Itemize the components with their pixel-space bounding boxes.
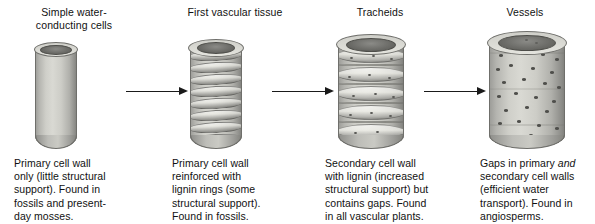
caption-line: only (little structural [14, 170, 159, 183]
stage-title-line-1: Vessels [455, 6, 595, 19]
cell-wall-outline [190, 46, 242, 148]
caption-line: structural support) but [325, 183, 477, 196]
caption-line: in all vascular plants. [325, 210, 477, 223]
caption-tracheids: Secondary cell wall with lignin (increas… [325, 157, 477, 223]
caption-first-vascular-tissue: Primary cell wall reinforced with lignin… [172, 157, 317, 223]
cell-lumen-opening [40, 45, 72, 55]
stage-title-line-1: First vascular tissue [160, 6, 310, 19]
caption-vessels: Gaps in primary and secondary cell walls… [480, 157, 595, 223]
arrow-shaft [424, 91, 477, 92]
caption-line: contains gaps. Found [325, 197, 477, 210]
cell-illustration-tracheids [338, 42, 404, 148]
caption-line: Found in fossils. [172, 210, 317, 223]
stage-title-first-vascular-tissue: First vascular tissue [160, 6, 310, 19]
arrow-shaft [272, 91, 325, 92]
stage-title-line-1: Tracheids [310, 6, 450, 19]
stage-title-simple-water-conducting-cells: Simple water- conducting cells [4, 6, 144, 31]
caption-line: Primary cell wall [14, 157, 159, 170]
cell-wall-outline [35, 48, 77, 148]
arrow-3 [424, 87, 486, 96]
caption-line: with lignin (increased [325, 170, 477, 183]
caption-line: Primary cell wall [172, 157, 317, 170]
arrow-2 [272, 87, 334, 96]
cell-illustration-vessels [489, 40, 565, 148]
caption-line: Secondary cell wall [325, 157, 477, 170]
stage-title-vessels: Vessels [455, 6, 595, 19]
arrow-1 [126, 87, 188, 96]
caption-line: day mosses. [14, 210, 159, 223]
cell-lumen-opening [346, 38, 396, 52]
stage-title-tracheids: Tracheids [310, 6, 450, 19]
cell-lumen-opening [197, 42, 235, 54]
arrow-shaft [126, 91, 179, 92]
caption-line: structural support). [172, 197, 317, 210]
arrow-head-icon [179, 87, 188, 95]
caption-line: secondary cell walls [480, 170, 595, 183]
arrow-head-icon [325, 87, 334, 95]
caption-line: transport). Found in [480, 197, 595, 210]
stage-title-line-1: Simple water- [4, 6, 144, 19]
cell-perforation-opening [498, 35, 556, 51]
caption-line-with-italic: Gaps in primary and [480, 157, 595, 170]
cell-illustration-simple-water-conducting-cells [35, 48, 77, 148]
evolution-of-water-conducting-cells-figure: Simple water- conducting cells First vas… [0, 0, 595, 224]
caption-italic-word: and [558, 157, 576, 169]
cell-wall-outline [338, 42, 404, 148]
caption-line: reinforced with [172, 170, 317, 183]
caption-line: lignin rings (some [172, 183, 317, 196]
stage-title-line-2: conducting cells [4, 19, 144, 32]
arrow-head-icon [477, 87, 486, 95]
caption-text-before-italic: Gaps in primary [480, 157, 558, 169]
caption-line: support). Found in [14, 183, 159, 196]
caption-line: fossils and present- [14, 197, 159, 210]
cell-illustration-first-vascular-tissue [190, 46, 242, 148]
caption-line: angiosperms. [480, 210, 595, 223]
caption-simple-water-conducting-cells: Primary cell wall only (little structura… [14, 157, 159, 223]
cell-wall-outline [489, 40, 565, 148]
caption-line: (efficient water [480, 183, 595, 196]
